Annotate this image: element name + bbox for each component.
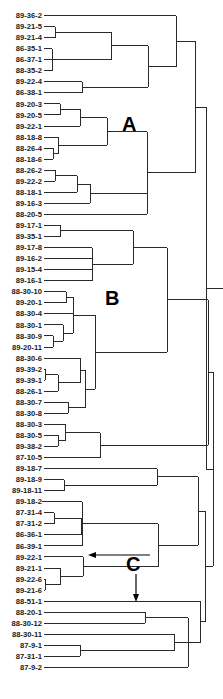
leaf-label: 89-21-5 bbox=[16, 22, 43, 31]
leaf-label: 88-18-8 bbox=[16, 133, 42, 142]
leaf-label: 88-30-10 bbox=[12, 287, 42, 296]
leaf-label: 89-18-9 bbox=[16, 475, 42, 484]
leaf-label: 88-26-2 bbox=[16, 166, 42, 175]
leaf-label: 88-30-3 bbox=[16, 420, 42, 429]
leaf-label: 89-22-6 bbox=[16, 575, 42, 584]
leaf-label: 89-20-5 bbox=[16, 111, 43, 120]
cluster-label-b: B bbox=[105, 287, 119, 309]
leaf-label: 88-20-1 bbox=[16, 608, 43, 617]
leaf-label: 89-22-4 bbox=[16, 77, 43, 86]
leaf-label: 88-30-9 bbox=[16, 332, 42, 341]
leaf-label: 89-21-6 bbox=[16, 586, 42, 595]
leaf-label: 89-16-2 bbox=[16, 254, 42, 263]
leaf-label: 88-18-1 bbox=[16, 188, 43, 197]
leaf-label: 86-35-1 bbox=[16, 44, 43, 53]
leaf-label: 87-31-1 bbox=[16, 652, 43, 661]
leaf-label: 88-30-8 bbox=[16, 409, 42, 418]
leaf-label: 89-22-2 bbox=[16, 177, 42, 186]
cluster-label-c: C bbox=[126, 553, 140, 575]
leaf-label: 88-26-1 bbox=[16, 387, 43, 396]
leaf-label: 86-37-1 bbox=[16, 55, 43, 64]
leaf-label: 88-30-4 bbox=[16, 309, 43, 318]
leaf-label: 86-36-1 bbox=[16, 530, 43, 539]
arrow-left-icon bbox=[88, 552, 150, 558]
leaf-labels: 89-36-289-21-589-21-486-35-186-37-188-35… bbox=[12, 11, 43, 672]
leaf-label: 88-26-4 bbox=[16, 144, 43, 153]
leaf-label: 89-16-1 bbox=[16, 276, 43, 285]
arrow-down-icon bbox=[133, 574, 139, 602]
leaf-label: 89-17-8 bbox=[16, 243, 42, 252]
leaf-label: 87-31-4 bbox=[16, 508, 43, 517]
leaf-label: 89-22-1 bbox=[16, 553, 43, 562]
leaf-label: 89-22-1 bbox=[16, 122, 43, 131]
leaf-label: 87-31-2 bbox=[16, 519, 42, 528]
leaf-label: 88-30-5 bbox=[16, 431, 43, 440]
leaf-label: 87-9-1 bbox=[20, 641, 43, 650]
cluster-label-a: A bbox=[122, 113, 136, 135]
leaf-label: 87-9-2 bbox=[20, 663, 42, 672]
leaf-label: 86-38-1 bbox=[16, 88, 43, 97]
leaf-label: 88-30-12 bbox=[12, 619, 42, 628]
leaf-label: 89-18-11 bbox=[12, 486, 43, 495]
leaf-label: 89-16-3 bbox=[16, 199, 42, 208]
leaf-label: 86-39-1 bbox=[16, 542, 43, 551]
leaf-label: 89-38-2 bbox=[16, 442, 42, 451]
leaf-label: 88-51-1 bbox=[16, 597, 43, 606]
leaf-label: 88-20-5 bbox=[16, 210, 43, 219]
leaf-label: 89-18-2 bbox=[16, 497, 42, 506]
leaf-label: 89-17-1 bbox=[16, 221, 43, 230]
leaf-label: 89-20-11 bbox=[12, 343, 43, 352]
leaf-label: 89-15-4 bbox=[16, 265, 43, 274]
dendrogram: 89-36-289-21-589-21-486-35-186-37-188-35… bbox=[0, 0, 223, 699]
leaf-label: 89-36-2 bbox=[16, 11, 42, 20]
leaf-label: 89-20-1 bbox=[16, 298, 43, 307]
leaf-label: 89-39-2 bbox=[16, 365, 42, 374]
leaf-label: 89-21-1 bbox=[16, 564, 43, 573]
leaf-label: 88-30-6 bbox=[16, 354, 42, 363]
leaf-label: 89-20-3 bbox=[16, 100, 42, 109]
leaf-label: 87-10-5 bbox=[16, 453, 43, 462]
leaf-label: 89-18-7 bbox=[16, 464, 42, 473]
leaf-label: 89-35-1 bbox=[16, 232, 43, 241]
leaf-label: 88-30-11 bbox=[12, 630, 43, 639]
leaf-label: 89-39-1 bbox=[16, 376, 43, 385]
leaf-label: 88-18-6 bbox=[16, 155, 42, 164]
leaf-label: 89-21-4 bbox=[16, 33, 43, 42]
leaf-label: 88-35-2 bbox=[16, 66, 42, 75]
leaf-label: 88-30-1 bbox=[16, 321, 43, 330]
leaf-label: 88-30-7 bbox=[16, 398, 42, 407]
